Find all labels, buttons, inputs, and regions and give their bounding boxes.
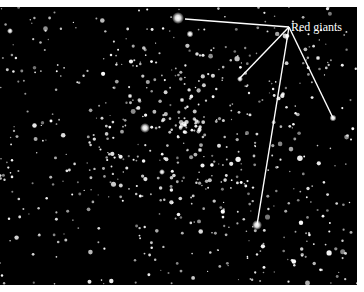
red-giants-label: Red giants <box>291 20 342 35</box>
star-field <box>0 7 357 285</box>
star-field-photo <box>0 7 357 285</box>
